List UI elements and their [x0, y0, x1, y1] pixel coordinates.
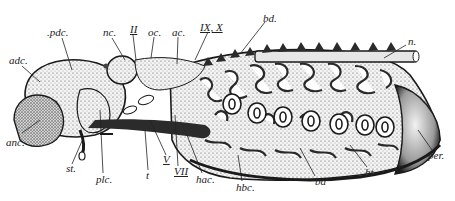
label-adc: adc. — [9, 55, 28, 66]
label-t: t — [146, 170, 149, 181]
embryo-illustration: .pdc. nc. II oc. ac. IX, X bd. n. adc. a… — [0, 0, 455, 201]
label-bd: bd. — [263, 13, 277, 24]
label-ba: ba — [315, 176, 326, 187]
label-per: per. — [428, 150, 444, 161]
label-V: V — [163, 154, 170, 165]
label-ac: ac. — [172, 27, 185, 38]
label-pdc: .pdc. — [47, 27, 68, 38]
label-st: st. — [66, 163, 76, 174]
label-VII: VII — [174, 166, 188, 177]
label-hbc: hbc. — [236, 182, 255, 193]
label-anc: anc. — [6, 137, 25, 148]
label-hac: hac. — [196, 174, 215, 185]
label-n: n. — [408, 36, 416, 47]
label-II: II — [130, 24, 137, 35]
label-plc: plc. — [96, 174, 112, 185]
label-nc: nc. — [103, 27, 116, 38]
label-IX-X: IX, X — [200, 22, 223, 33]
label-oc: oc. — [148, 27, 161, 38]
label-ht: ht. — [365, 167, 376, 178]
